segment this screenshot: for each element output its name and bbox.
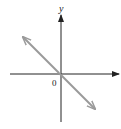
coordinate-plane: y 0 <box>0 0 121 129</box>
graph-line <box>59 73 95 109</box>
origin-label: 0 <box>52 78 57 88</box>
graph-line <box>23 37 59 73</box>
y-axis-label: y <box>58 3 64 14</box>
